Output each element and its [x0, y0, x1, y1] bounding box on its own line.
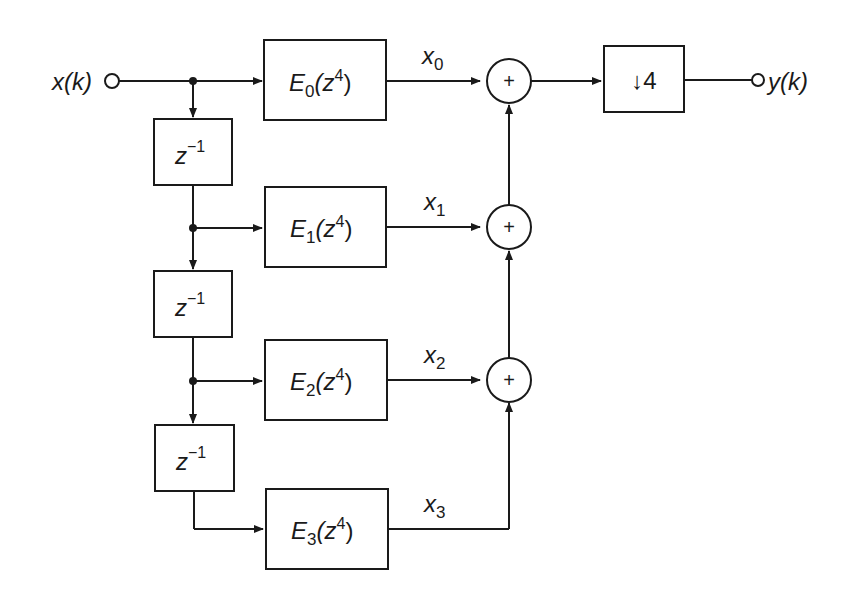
plus-icon: + — [503, 70, 515, 92]
output-terminal — [752, 74, 764, 86]
output-label: y(k) — [766, 68, 808, 95]
polyphase-diagram: x(k) y(k) E0(z4) E1(z4) E2(z4) E3(z4) z−… — [0, 0, 847, 597]
downsampler-label: ↓4 — [631, 67, 656, 94]
input-label: x(k) — [51, 68, 92, 95]
signal-label-x3: x3 — [423, 490, 445, 522]
signal-label-x0: x0 — [421, 42, 443, 74]
signal-label-x1: x1 — [423, 188, 445, 220]
plus-icon: + — [503, 216, 515, 238]
junction-dot — [189, 77, 197, 85]
signal-label-x2: x2 — [423, 341, 445, 373]
input-terminal — [105, 74, 119, 88]
junction-dot — [189, 224, 197, 232]
plus-icon: + — [503, 369, 515, 391]
junction-dot — [189, 377, 197, 385]
